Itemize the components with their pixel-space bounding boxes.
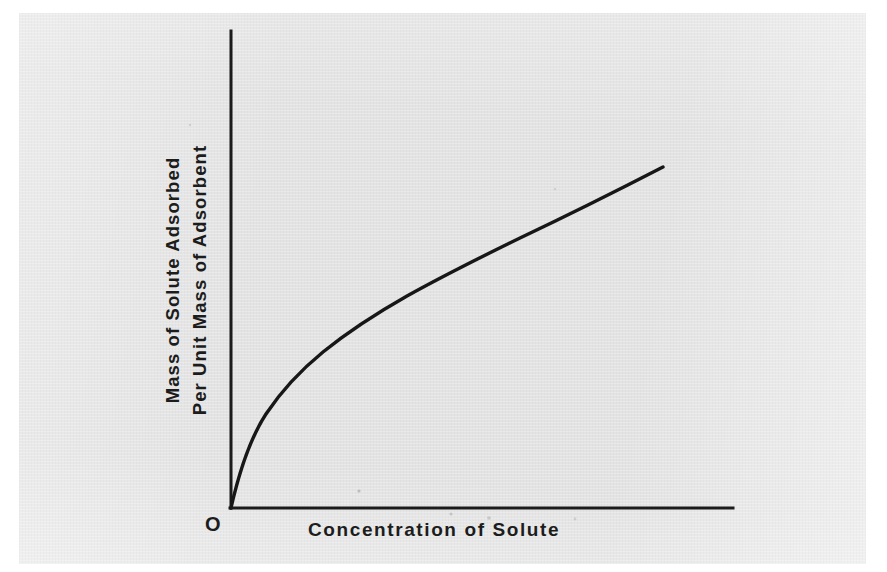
y-axis-title-line-1: Mass of Solute Adsorbed [162, 157, 184, 404]
scan-speck [357, 489, 360, 492]
figure-page: Mass of Solute Adsorbed Per Unit Mass of… [0, 0, 887, 572]
scan-speck [574, 518, 577, 521]
isotherm-curve [231, 167, 663, 508]
scanned-paper-background [19, 13, 866, 564]
y-axis-title-line-2: Per Unit Mass of Adsorbent [189, 145, 211, 416]
scan-speck [554, 188, 557, 191]
adsorption-isotherm-plot [19, 13, 866, 564]
scan-speck [450, 513, 453, 516]
origin-label: O [205, 513, 221, 536]
scan-speck [189, 124, 191, 126]
x-axis-title: Concentration of Solute [308, 519, 560, 541]
